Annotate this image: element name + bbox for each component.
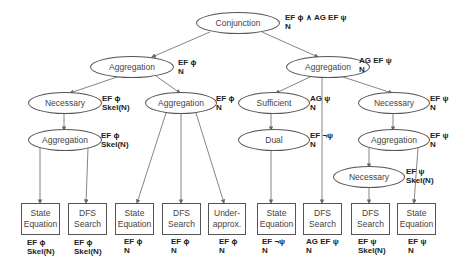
node-necessary-right: Necessary [358, 92, 430, 114]
annotation-aggregation-right: AG EF ψN [359, 56, 392, 74]
leaf-dfs-search-4: DFSSearch [351, 203, 390, 235]
annotation-necessary-left: EF ϕSkel(N) [102, 94, 130, 112]
node-conjunction: Conjunction [196, 12, 280, 34]
leaf-annotation-8: EF ψSkel(N) [358, 237, 386, 255]
leaf-annotation-1: EF ϕSkel(N) [27, 238, 55, 256]
leaf-annotation-2: EF ϕSkel(N) [74, 238, 102, 256]
node-aggregation-right: Aggregation [286, 56, 370, 78]
leaf-dfs-search-1: DFSSearch [68, 203, 107, 235]
node-aggregation-right-2: Aggregation [358, 129, 430, 151]
leaf-dfs-search-2: DFSSearch [162, 203, 201, 235]
node-sufficient: Sufficient [238, 92, 310, 114]
node-necessary-right-2: Necessary [333, 166, 405, 188]
annotation-aggregation-left-3: EF ϕSkel(N) [101, 131, 129, 149]
leaf-annotation-4: EF ϕN [171, 237, 189, 255]
annotation-necessary-right: EF ψN [430, 94, 448, 112]
node-dual: Dual [238, 129, 310, 151]
leaf-under-approx: Under-approx. [208, 203, 246, 235]
annotation-aggregation-right-2: EF ψN [430, 131, 448, 149]
leaf-state-equation-4: StateEquation [397, 203, 436, 235]
leaf-annotation-6: EF ¬ψN [262, 237, 285, 255]
node-aggregation-left-2: Aggregation [145, 92, 217, 114]
annotation-necessary-right-2: EF ψSkel(N) [406, 167, 434, 185]
leaf-annotation-3: EF ϕN [124, 237, 142, 255]
node-aggregation-left: Aggregation [90, 56, 174, 78]
annotation-conjunction: EF ϕ ∧ AG EF ψN [285, 13, 347, 31]
leaf-state-equation-2: StateEquation [115, 203, 154, 235]
leaf-dfs-search-3: DFSSearch [303, 203, 342, 235]
node-necessary-left: Necessary [28, 92, 102, 114]
annotation-aggregation-left: EF ϕN [178, 58, 196, 76]
annotation-sufficient: AG ψN [310, 94, 330, 112]
leaf-annotation-7: AG EF ψN [306, 237, 339, 255]
node-aggregation-left-3: Aggregation [28, 129, 102, 151]
leaf-state-equation-3: StateEquation [257, 203, 296, 235]
leaf-state-equation-1: StateEquation [21, 203, 60, 235]
leaf-annotation-9: EF ψN [408, 237, 426, 255]
annotation-aggregation-left-2: EF ϕN [216, 94, 234, 112]
annotation-dual: EF ¬ψN [310, 131, 333, 149]
leaf-annotation-5: EF ϕN [219, 237, 237, 255]
